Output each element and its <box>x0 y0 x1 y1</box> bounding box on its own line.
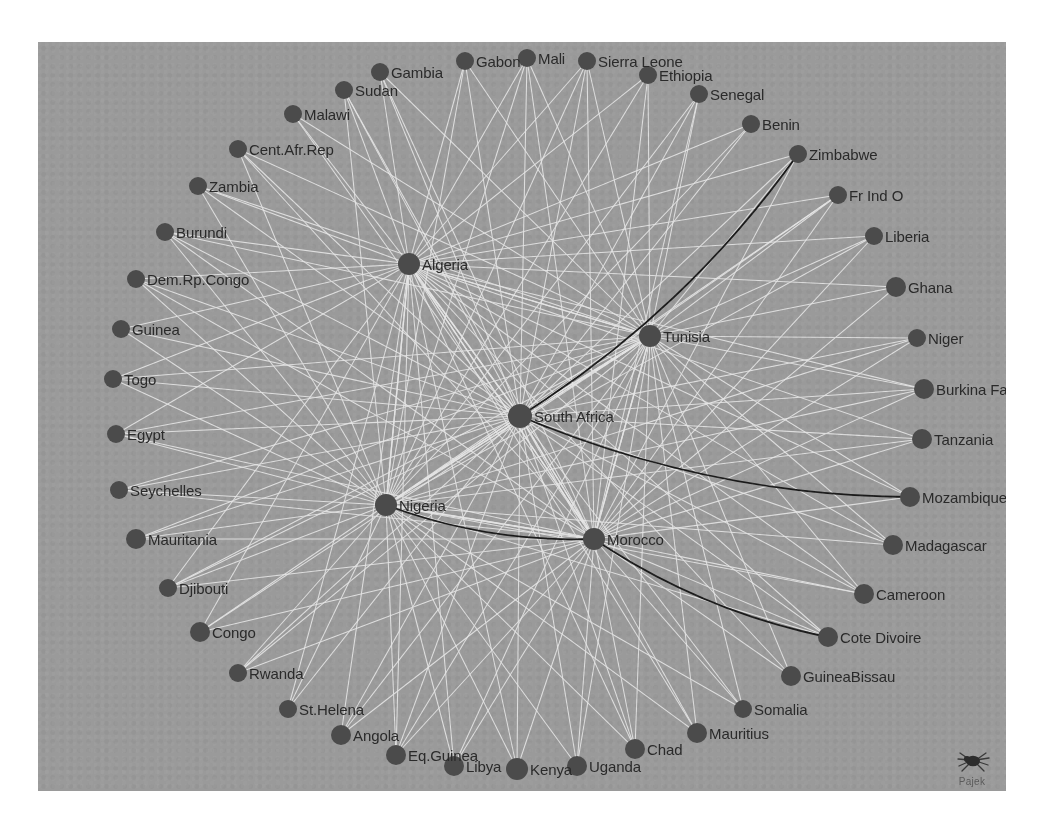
edge <box>380 72 409 264</box>
graph-node-label-malawi: Malawi <box>304 107 350 122</box>
graph-node-label-sudan: Sudan <box>355 83 398 98</box>
graph-node-kenya[interactable] <box>506 758 528 780</box>
spider-icon <box>944 747 998 777</box>
edge <box>409 264 896 287</box>
graph-node-madagascar[interactable] <box>883 535 903 555</box>
graph-node-guineabissau[interactable] <box>781 666 801 686</box>
edge <box>409 236 874 264</box>
graph-node-zambia[interactable] <box>189 177 207 195</box>
edge <box>517 416 520 769</box>
network-graph-panel: GambiaGabonMaliSierra LeoneEthiopiaSudan… <box>38 42 1006 791</box>
edge <box>409 124 751 264</box>
graph-node-label-niger: Niger <box>928 331 963 346</box>
edge <box>396 539 594 755</box>
graph-node-fr-ind-o[interactable] <box>829 186 847 204</box>
graph-node-morocco[interactable] <box>583 528 605 550</box>
edge <box>650 94 699 336</box>
graph-node-label-tunisia: Tunisia <box>663 329 710 344</box>
graph-node-label-ghana: Ghana <box>908 280 953 295</box>
graph-node-label-congo: Congo <box>212 625 256 640</box>
graph-node-label-tanzania: Tanzania <box>934 432 993 447</box>
graph-node-label-mauritania: Mauritania <box>148 532 217 547</box>
graph-node-djibouti[interactable] <box>159 579 177 597</box>
graph-node-mozambique[interactable] <box>900 487 920 507</box>
graph-node-tunisia[interactable] <box>639 325 661 347</box>
graph-node-label-djibouti: Djibouti <box>179 581 228 596</box>
graph-node-label-seychelles: Seychelles <box>130 483 202 498</box>
graph-node-burkina-faso[interactable] <box>914 379 934 399</box>
graph-node-label-morocco: Morocco <box>607 532 664 547</box>
edge <box>520 94 699 416</box>
graph-node-rwanda[interactable] <box>229 664 247 682</box>
graph-node-liberia[interactable] <box>865 227 883 245</box>
edge <box>121 329 386 505</box>
graph-node-label-angola: Angola <box>353 728 399 743</box>
edge <box>344 90 520 416</box>
graph-node-mauritius[interactable] <box>687 723 707 743</box>
graph-node-label-kenya: Kenya <box>530 762 572 777</box>
edge <box>650 236 874 336</box>
edge <box>520 416 594 539</box>
graph-node-algeria[interactable] <box>398 253 420 275</box>
graph-node-label-fr-ind-o: Fr Ind O <box>849 188 903 203</box>
edge <box>136 279 386 505</box>
graph-node-tanzania[interactable] <box>912 429 932 449</box>
edge <box>520 58 527 416</box>
pajek-watermark: Pajek <box>944 747 998 787</box>
graph-node-label-nigeria: Nigeria <box>399 498 446 513</box>
graph-node-label-burkina-faso: Burkina Faso <box>936 382 1006 397</box>
graph-node-guinea[interactable] <box>112 320 130 338</box>
graph-node-cameroon[interactable] <box>854 584 874 604</box>
graph-node-chad[interactable] <box>625 739 645 759</box>
graph-node-senegal[interactable] <box>690 85 708 103</box>
edge <box>293 114 409 264</box>
graph-node-label-zimbabwe: Zimbabwe <box>809 147 877 162</box>
graph-node-label-st-helena: St.Helena <box>299 702 364 717</box>
graph-node-burundi[interactable] <box>156 223 174 241</box>
graph-node-zimbabwe[interactable] <box>789 145 807 163</box>
graph-node-egypt[interactable] <box>107 425 125 443</box>
graph-node-ghana[interactable] <box>886 277 906 297</box>
graph-node-dem-rp-congo[interactable] <box>127 270 145 288</box>
graph-node-mali[interactable] <box>518 49 536 67</box>
graph-node-angola[interactable] <box>331 725 351 745</box>
graph-node-cote-divoire[interactable] <box>818 627 838 647</box>
graph-node-sudan[interactable] <box>335 81 353 99</box>
graph-node-south-africa[interactable] <box>508 404 532 428</box>
graph-node-label-zambia: Zambia <box>209 179 258 194</box>
edge <box>520 416 577 766</box>
edge <box>594 439 922 539</box>
graph-node-eq-guinea[interactable] <box>386 745 406 765</box>
graph-node-label-egypt: Egypt <box>127 427 165 442</box>
edge <box>238 505 386 673</box>
edge <box>520 416 697 733</box>
graph-node-somalia[interactable] <box>734 700 752 718</box>
edge <box>648 75 650 336</box>
graph-node-st-helena[interactable] <box>279 700 297 718</box>
edge <box>198 186 409 264</box>
graph-node-label-somalia: Somalia <box>754 702 808 717</box>
graph-node-label-cote-divoire: Cote Divoire <box>840 630 921 645</box>
graph-node-label-madagascar: Madagascar <box>905 538 987 553</box>
graph-node-sierra-leone[interactable] <box>578 52 596 70</box>
graph-node-label-liberia: Liberia <box>885 229 929 244</box>
graph-node-label-mozambique: Mozambique <box>922 490 1006 505</box>
graph-node-seychelles[interactable] <box>110 481 128 499</box>
graph-node-niger[interactable] <box>908 329 926 347</box>
graph-node-cent-afr-rep[interactable] <box>229 140 247 158</box>
edge <box>293 114 650 336</box>
graph-node-label-gambia: Gambia <box>391 65 443 80</box>
graph-node-mauritania[interactable] <box>126 529 146 549</box>
edge <box>520 124 751 416</box>
graph-node-label-guinea: Guinea <box>132 322 180 337</box>
graph-node-label-dem-rp-congo: Dem.Rp.Congo <box>147 272 249 287</box>
graph-node-gambia[interactable] <box>371 63 389 81</box>
graph-node-malawi[interactable] <box>284 105 302 123</box>
edge <box>200 264 409 632</box>
graph-node-togo[interactable] <box>104 370 122 388</box>
graph-node-benin[interactable] <box>742 115 760 133</box>
graph-node-congo[interactable] <box>190 622 210 642</box>
graph-node-nigeria[interactable] <box>375 494 397 516</box>
graph-node-label-algeria: Algeria <box>422 257 468 272</box>
graph-node-gabon[interactable] <box>456 52 474 70</box>
